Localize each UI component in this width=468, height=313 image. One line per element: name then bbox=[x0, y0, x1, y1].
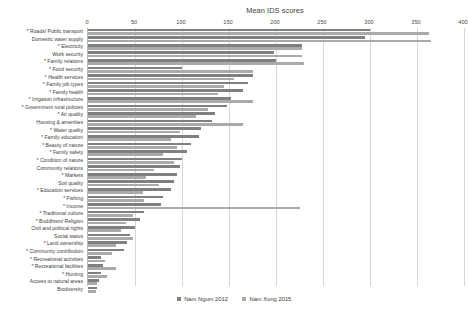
bar-row bbox=[88, 278, 463, 286]
bar-nam-ngum-2012 bbox=[88, 135, 199, 138]
bar-nam-ngum-2012 bbox=[88, 211, 144, 214]
bar-row bbox=[88, 240, 463, 248]
category-label: Work security bbox=[52, 51, 83, 59]
bar-nam-xong-2015 bbox=[88, 191, 143, 194]
bar-row bbox=[88, 180, 463, 188]
x-tick-150: 150 bbox=[223, 19, 232, 25]
category-label: Access to natural areas bbox=[30, 278, 83, 286]
bar-row bbox=[88, 66, 463, 74]
bar-row bbox=[88, 195, 463, 203]
bar-row bbox=[88, 36, 463, 44]
bar-nam-xong-2015 bbox=[88, 244, 116, 247]
x-tick-250: 250 bbox=[317, 19, 326, 25]
category-label: * Land ownership bbox=[44, 240, 83, 248]
bar-nam-ngum-2012 bbox=[88, 112, 215, 115]
bar-row bbox=[88, 210, 463, 218]
category-label: Housing & amenities bbox=[36, 119, 83, 127]
bar-nam-xong-2015 bbox=[88, 275, 107, 278]
bar-nam-xong-2015 bbox=[88, 108, 208, 111]
bar-row bbox=[88, 28, 463, 36]
bar-nam-xong-2015 bbox=[88, 55, 302, 58]
bar-row bbox=[88, 89, 463, 97]
bar-nam-ngum-2012 bbox=[88, 44, 302, 47]
category-label: Civil and political rights bbox=[31, 225, 83, 233]
gridline-400 bbox=[464, 28, 465, 286]
bar-nam-xong-2015 bbox=[88, 32, 429, 35]
category-label: * Roads/ Public transport bbox=[27, 28, 83, 36]
x-tick-50: 50 bbox=[131, 19, 137, 25]
bar-row bbox=[88, 225, 463, 233]
bar-nam-ngum-2012 bbox=[88, 97, 231, 100]
category-label: * Hunting bbox=[62, 271, 83, 279]
bar-nam-xong-2015 bbox=[88, 222, 126, 225]
bar-nam-ngum-2012 bbox=[88, 165, 180, 168]
bar-nam-xong-2015 bbox=[88, 252, 112, 255]
category-label: * Fishing bbox=[63, 195, 83, 203]
bar-row bbox=[88, 149, 463, 157]
bar-nam-xong-2015 bbox=[88, 138, 171, 141]
bar-nam-xong-2015 bbox=[88, 267, 116, 270]
bar-nam-xong-2015 bbox=[88, 237, 133, 240]
x-tick-400: 400 bbox=[458, 19, 467, 25]
bar-row bbox=[88, 51, 463, 59]
category-label: * Traditional culture bbox=[39, 210, 83, 218]
bar-row bbox=[88, 74, 463, 82]
bar-nam-ngum-2012 bbox=[88, 264, 103, 267]
x-axis-tick-labels: 050100150200250300350400 bbox=[0, 19, 468, 28]
category-label: * Community contribution bbox=[26, 248, 83, 256]
bar-nam-xong-2015 bbox=[88, 146, 177, 149]
y-axis-category-labels: * Roads/ Public transportDomestic water … bbox=[0, 28, 85, 286]
bar-nam-ngum-2012 bbox=[88, 188, 171, 191]
bar-row bbox=[88, 104, 463, 112]
bar-nam-ngum-2012 bbox=[88, 218, 140, 221]
bar-nam-xong-2015 bbox=[88, 93, 218, 96]
x-tick-0: 0 bbox=[85, 19, 88, 25]
category-label: * Buddhism/ Religion bbox=[36, 218, 83, 226]
bar-nam-ngum-2012 bbox=[88, 51, 274, 54]
bar-nam-xong-2015 bbox=[88, 290, 96, 293]
bar-row bbox=[88, 96, 463, 104]
category-label: Social status bbox=[54, 233, 83, 241]
bar-nam-ngum-2012 bbox=[88, 29, 370, 32]
category-label: Community relations bbox=[37, 165, 83, 173]
bar-row bbox=[88, 157, 463, 165]
bar-nam-xong-2015 bbox=[88, 184, 159, 187]
bar-nam-xong-2015 bbox=[88, 153, 163, 156]
bar-row bbox=[88, 165, 463, 173]
bar-nam-xong-2015 bbox=[88, 169, 154, 172]
bar-row bbox=[88, 58, 463, 66]
category-label: * Air quality bbox=[58, 111, 83, 119]
bar-row bbox=[88, 203, 463, 211]
bar-nam-ngum-2012 bbox=[88, 173, 177, 176]
category-label: * Family relations bbox=[44, 58, 83, 66]
bar-nam-xong-2015 bbox=[88, 70, 253, 73]
bar-nam-ngum-2012 bbox=[88, 143, 191, 146]
category-label: * Recreational facilities bbox=[31, 263, 83, 271]
legend-swatch-icon bbox=[242, 297, 247, 302]
category-label: * Family job types bbox=[43, 81, 83, 89]
bar-row bbox=[88, 271, 463, 279]
bar-row bbox=[88, 187, 463, 195]
bar-nam-xong-2015 bbox=[88, 78, 234, 81]
bar-row bbox=[88, 127, 463, 135]
category-label: * Beauty of nature bbox=[42, 142, 83, 150]
bar-nam-ngum-2012 bbox=[88, 82, 248, 85]
chart-legend: Nam Ngum 2012Nam Xong 2015 bbox=[0, 296, 468, 302]
bar-nam-xong-2015 bbox=[88, 282, 97, 285]
x-tick-100: 100 bbox=[176, 19, 185, 25]
bar-nam-xong-2015 bbox=[88, 207, 300, 210]
category-label: * Income bbox=[63, 203, 83, 211]
bar-nam-xong-2015 bbox=[88, 131, 180, 134]
bar-nam-ngum-2012 bbox=[88, 196, 163, 199]
bar-row bbox=[88, 81, 463, 89]
x-tick-300: 300 bbox=[364, 19, 373, 25]
bar-nam-ngum-2012 bbox=[88, 127, 201, 130]
bar-row bbox=[88, 256, 463, 264]
category-label: * Recreational activities bbox=[30, 256, 83, 264]
bar-nam-ngum-2012 bbox=[88, 105, 227, 108]
bar-nam-xong-2015 bbox=[88, 47, 302, 50]
bar-row bbox=[88, 119, 463, 127]
bar-nam-ngum-2012 bbox=[88, 226, 135, 229]
bar-row bbox=[88, 134, 463, 142]
bar-nam-xong-2015 bbox=[88, 161, 174, 164]
